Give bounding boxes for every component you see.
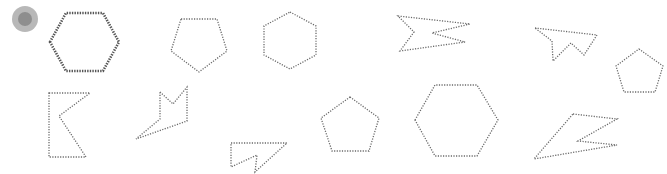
- hexagon-selected[interactable]: [50, 13, 119, 71]
- cursor-inner-dot-icon: [18, 12, 32, 26]
- pentagon-small[interactable]: [616, 49, 663, 92]
- hexagon-pointy[interactable]: [264, 12, 316, 69]
- zigzag-polygon-1[interactable]: [398, 16, 470, 51]
- k-shape-polygon[interactable]: [49, 93, 90, 157]
- pentagon-medium[interactable]: [321, 97, 379, 151]
- hexagon-large[interactable]: [415, 85, 498, 156]
- drawing-canvas[interactable]: [0, 0, 667, 174]
- pentagon-inverted[interactable]: [171, 19, 227, 72]
- zigzag-polygon-2[interactable]: [535, 28, 597, 61]
- cursor-indicator: [12, 6, 38, 32]
- triangle-notch-polygon[interactable]: [231, 143, 287, 172]
- shapes-layer: [49, 12, 663, 172]
- lightning-polygon[interactable]: [534, 114, 617, 159]
- crown-polygon[interactable]: [136, 87, 187, 139]
